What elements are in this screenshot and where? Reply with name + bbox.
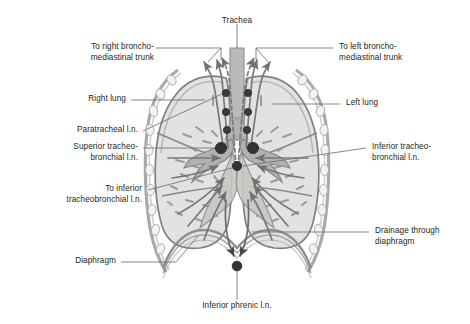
superior-tracheobronchial-right (215, 142, 226, 153)
superior-tracheobronchial-left (247, 142, 258, 153)
label-inferior-phrenic-ln: Inferior phrenic l.n. (177, 301, 297, 312)
label-to-left-bronchomediastinal-trunk: To left broncho- mediastinal trunk (339, 42, 467, 63)
paratracheal-left-3 (243, 126, 250, 133)
label-superior-tracheobronchial-ln: Superior tracheo- bronchial l.n. (14, 142, 138, 163)
inferior-tracheobronchial (232, 161, 241, 170)
label-right-lung: Right lung (46, 94, 126, 105)
label-left-lung: Left lung (346, 98, 426, 109)
label-diaphragm: Diaphragm (40, 256, 116, 267)
paratracheal-right-3 (223, 126, 230, 133)
label-inferior-tracheobronchial-ln: Inferior tracheo- bronchial l.n. (372, 142, 470, 163)
inferior-phrenic (232, 261, 242, 271)
leader-to-right-bronchomediastinal-trunk-b (208, 48, 221, 62)
label-to-right-bronchomediastinal-trunk: To right broncho- mediastinal trunk (26, 42, 154, 63)
label-trachea: Trachea (202, 16, 272, 27)
paratracheal-right-1 (222, 89, 229, 96)
paratracheal-left-2 (244, 108, 251, 115)
label-to-inferior-tracheobronchial-ln: To inferior tracheobronchial l.n. (8, 184, 142, 205)
leader-to-left-bronchomediastinal-trunk (256, 48, 333, 60)
label-paratracheal-ln: Paratracheal l.n. (22, 125, 138, 136)
paratracheal-left-1 (244, 89, 251, 96)
label-drainage-through-diaphragm: Drainage through diaphragm (375, 226, 470, 247)
paratracheal-right-2 (222, 108, 229, 115)
